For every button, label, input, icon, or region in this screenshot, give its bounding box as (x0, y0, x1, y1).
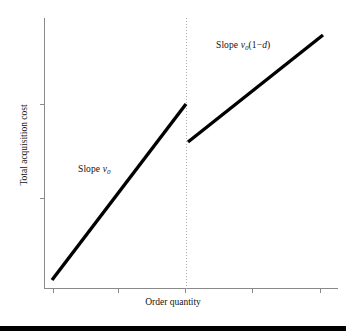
chart-canvas (0, 0, 346, 335)
annotation-slope-high: Slope v0(1−d) (216, 40, 270, 52)
bottom-rule (0, 326, 346, 331)
y-axis-title-wrapper: Total acquisition cost (15, 0, 33, 290)
x-axis-title: Order quantity (0, 297, 346, 307)
annotation-slope-low-subscript: 0 (107, 168, 111, 176)
figure-container: Slope v0 Slope v0(1−d) Order quantity To… (0, 0, 346, 335)
annotation-slope-high-close: ) (267, 40, 270, 50)
y-axis-title: Total acquisition cost (19, 104, 29, 185)
annotation-slope-high-prefix: Slope (216, 40, 241, 50)
annotation-slope-low: Slope v0 (78, 164, 111, 176)
annotation-slope-low-prefix: Slope (78, 164, 103, 174)
annotation-slope-high-suffix: (1− (249, 40, 263, 50)
data-segment-low-slope (52, 104, 186, 280)
